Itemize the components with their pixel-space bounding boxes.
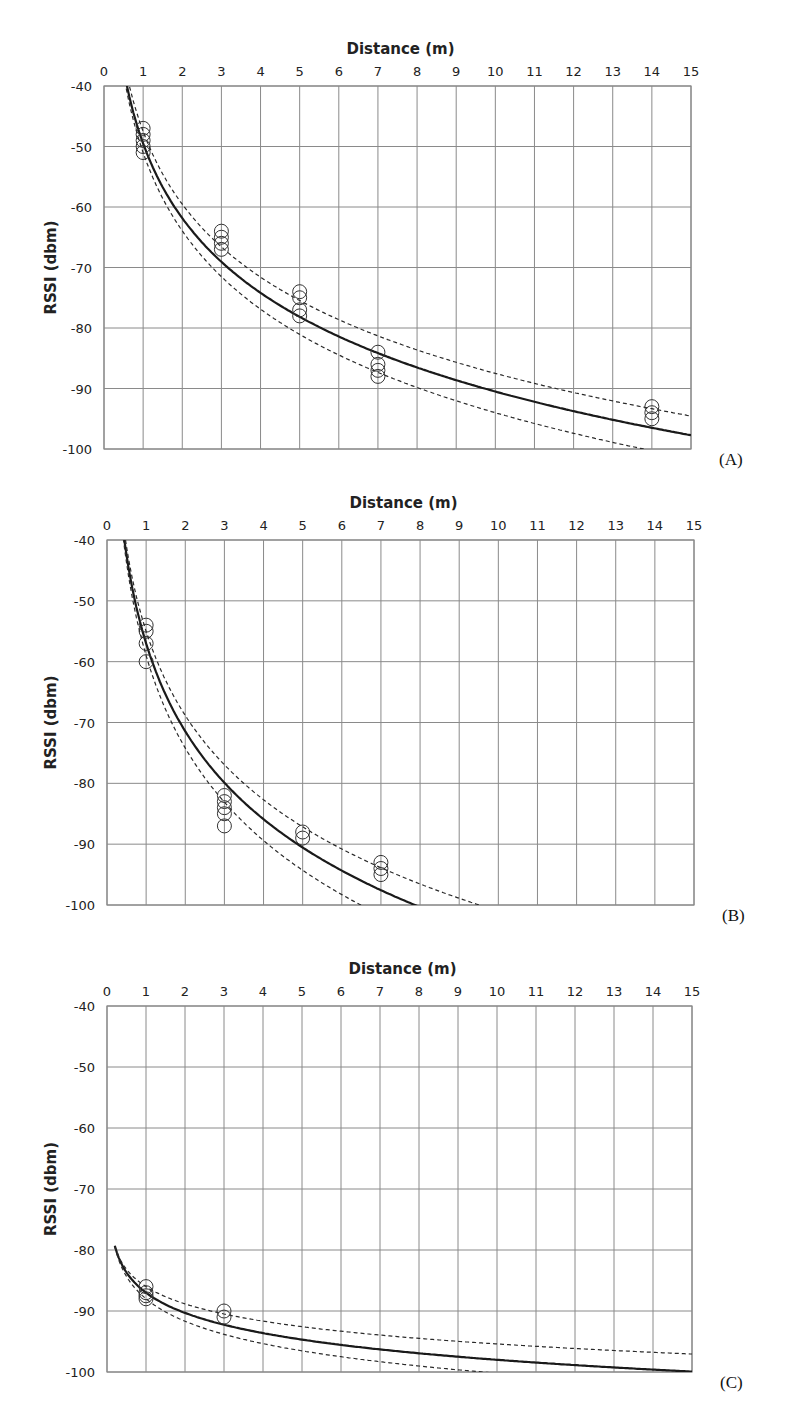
chart-panel-c: 0123456789101112131415-40-50-60-70-80-90… xyxy=(0,0,787,1416)
y-tick-label: -100 xyxy=(65,1365,95,1380)
fit-line xyxy=(115,1246,692,1372)
y-tick-label: -90 xyxy=(74,1304,95,1319)
x-tick-label: 15 xyxy=(684,984,701,999)
x-tick-label: 13 xyxy=(606,984,623,999)
lower-bound-line xyxy=(115,1247,692,1387)
x-tick-label: 9 xyxy=(454,984,462,999)
x-tick-label: 1 xyxy=(142,984,150,999)
x-tick-label: 12 xyxy=(567,984,584,999)
x-tick-label: 2 xyxy=(181,984,189,999)
y-tick-label: -50 xyxy=(74,1060,95,1075)
y-axis-label: RSSI (dbm) xyxy=(42,1142,60,1236)
x-tick-label: 14 xyxy=(645,984,662,999)
x-tick-label: 8 xyxy=(415,984,423,999)
y-tick-label: -70 xyxy=(74,1182,95,1197)
x-tick-label: 6 xyxy=(337,984,345,999)
y-tick-label: -40 xyxy=(74,999,95,1014)
upper-bound-line xyxy=(115,1247,692,1355)
fit-curves xyxy=(115,1246,692,1387)
panel-label-c: (C) xyxy=(720,1373,743,1392)
x-tick-label: 0 xyxy=(103,984,111,999)
x-tick-label: 3 xyxy=(220,984,228,999)
chart-title: Distance (m) xyxy=(348,960,456,978)
y-tick-label: -60 xyxy=(74,1121,95,1136)
x-tick-label: 11 xyxy=(528,984,545,999)
x-tick-label: 7 xyxy=(376,984,384,999)
x-tick-label: 10 xyxy=(489,984,506,999)
chart-c-svg: 0123456789101112131415-40-50-60-70-80-90… xyxy=(0,0,787,1416)
x-axis-ticks: 0123456789101112131415 xyxy=(103,984,700,999)
y-tick-label: -80 xyxy=(74,1243,95,1258)
x-tick-label: 4 xyxy=(259,984,267,999)
y-axis-ticks: -40-50-60-70-80-90-100 xyxy=(65,999,95,1380)
x-tick-label: 5 xyxy=(298,984,306,999)
